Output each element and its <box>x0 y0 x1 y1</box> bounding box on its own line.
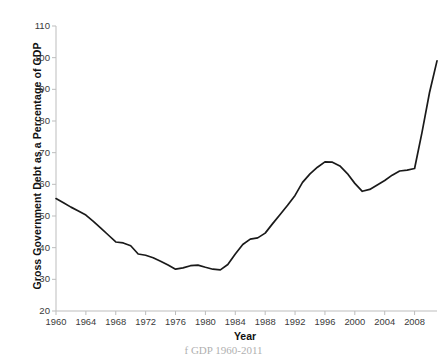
y-tick-label: 60 <box>24 179 50 189</box>
debt-series-line <box>56 61 437 270</box>
y-tick-label: 40 <box>24 243 50 253</box>
x-axis-title: Year <box>55 330 435 342</box>
y-tick-marks <box>52 26 56 311</box>
chart-figure: Gross Government Debt as a Percentage of… <box>0 0 447 355</box>
y-tick-label: 50 <box>24 211 50 221</box>
y-tick-label: 100 <box>24 53 50 63</box>
figure-caption: f GDP 1960-2011 <box>0 344 447 355</box>
y-tick-label: 110 <box>24 21 50 31</box>
y-tick-label: 80 <box>24 116 50 126</box>
y-tick-label: 70 <box>24 148 50 158</box>
y-tick-label: 20 <box>24 306 50 316</box>
y-tick-label: 90 <box>24 84 50 94</box>
plot-area <box>0 0 447 355</box>
x-tick-marks <box>56 311 415 315</box>
x-tick-label: 2008 <box>395 317 435 327</box>
y-tick-label: 30 <box>24 274 50 284</box>
axes-group <box>52 26 437 315</box>
